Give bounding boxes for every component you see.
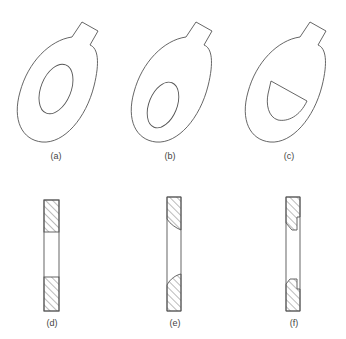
top-hatched-section xyxy=(286,197,300,230)
label-e: (e) xyxy=(160,318,190,328)
panel-d-cross-section xyxy=(44,200,59,311)
bottom-hatched-section xyxy=(286,279,300,311)
top-hatched-section xyxy=(44,200,59,232)
bottom-hatched-section xyxy=(167,274,181,311)
diagram-canvas xyxy=(0,0,346,339)
outer-disc-outline xyxy=(245,22,326,142)
offset-hole xyxy=(141,78,185,133)
top-hatched-section xyxy=(167,197,181,230)
d-shaped-hole xyxy=(267,81,307,120)
label-d: (d) xyxy=(37,318,67,328)
outer-disc-outline xyxy=(131,22,212,142)
panel-f-cross-section xyxy=(286,197,300,311)
panel-e-cross-section xyxy=(167,197,181,311)
panel-b-plan-view xyxy=(131,22,212,142)
label-b: (b) xyxy=(155,151,185,161)
bottom-hatched-section xyxy=(44,277,59,311)
panel-c-plan-view xyxy=(245,22,326,142)
center-hole xyxy=(32,59,79,118)
label-a: (a) xyxy=(41,151,71,161)
panel-a-plan-view xyxy=(17,22,98,142)
outer-disc-outline xyxy=(17,22,98,142)
label-f: (f) xyxy=(279,318,309,328)
label-c: (c) xyxy=(274,151,304,161)
